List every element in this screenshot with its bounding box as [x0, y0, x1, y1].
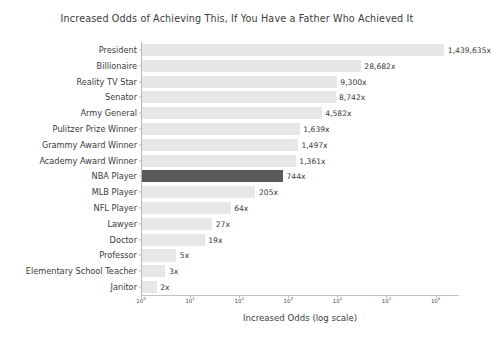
category-label: Reality TV Star: [76, 77, 137, 87]
x-axis-tick-label: 105: [382, 298, 391, 304]
y-axis-tick: [139, 49, 142, 50]
bar: [142, 91, 336, 103]
category-label: Lawyer: [107, 219, 137, 229]
bar-row: NBA Player744x: [141, 169, 459, 185]
bar-value-label: 28,682x: [364, 61, 395, 70]
bar: [142, 234, 205, 246]
bar: [142, 186, 255, 198]
y-axis-tick: [139, 255, 142, 256]
category-label: Senator: [105, 92, 137, 102]
bar-row: Grammy Award Winner1,497x: [141, 137, 459, 153]
bar: [142, 44, 444, 56]
y-axis-tick: [139, 81, 142, 82]
bar-row: Reality TV Star9,300x: [141, 74, 459, 90]
bar: [142, 76, 337, 88]
category-label: Pulitzer Prize Winner: [53, 124, 137, 134]
x-axis-tick-label: 106: [431, 298, 440, 304]
category-label: Grammy Award Winner: [42, 140, 137, 150]
bar: [142, 249, 176, 261]
bar-value-label: 27x: [216, 219, 230, 228]
bar-value-label: 64x: [234, 204, 248, 213]
category-label: Army General: [80, 108, 137, 118]
y-axis-tick: [139, 287, 142, 288]
bar: [142, 123, 300, 135]
bar-value-label: 19x: [208, 235, 222, 244]
y-axis-tick: [139, 128, 142, 129]
y-axis-tick: [139, 223, 142, 224]
category-label: President: [99, 45, 137, 55]
category-label: Professor: [99, 250, 137, 260]
x-axis-tick-label: 100: [136, 298, 145, 304]
y-axis-tick: [139, 65, 142, 66]
category-label: NBA Player: [92, 171, 137, 181]
bar-row: Professor5x: [141, 248, 459, 264]
x-axis-tick-label: 101: [185, 298, 194, 304]
category-label: MLB Player: [92, 187, 137, 197]
bar: [142, 218, 212, 230]
bar-value-label: 2x: [160, 283, 169, 292]
bar-row: Senator8,742x: [141, 89, 459, 105]
bar: [142, 265, 165, 277]
bar-row: NFL Player64x: [141, 200, 459, 216]
bar-value-label: 1,497x: [301, 140, 327, 149]
bar-value-label: 1,439,635x: [448, 45, 491, 54]
bar-value-label: 205x: [259, 188, 278, 197]
bar-row: Lawyer27x: [141, 216, 459, 232]
x-axis-tick-label: 103: [284, 298, 293, 304]
y-axis-tick: [139, 239, 142, 240]
x-axis-label: Increased Odds (log scale): [141, 313, 459, 323]
bar-row: Army General4,582x: [141, 105, 459, 121]
y-axis-tick: [139, 97, 142, 98]
bar-row: Pulitzer Prize Winner1,639x: [141, 121, 459, 137]
bar-value-label: 9,300x: [340, 77, 366, 86]
bar-row: Academy Award Winner1,361x: [141, 153, 459, 169]
category-label: Elementary School Teacher: [26, 266, 137, 276]
bar-value-label: 5x: [180, 251, 189, 260]
category-label: Academy Award Winner: [39, 156, 137, 166]
bar: [142, 155, 296, 167]
category-label: Janitor: [111, 282, 137, 292]
bar-row: Janitor2x: [141, 279, 459, 295]
bar-row: President1,439,635x: [141, 42, 459, 58]
category-label: Doctor: [110, 235, 137, 245]
y-axis-tick: [139, 271, 142, 272]
y-axis-tick: [139, 160, 142, 161]
chart-title: Increased Odds of Achieving This, If You…: [0, 13, 474, 24]
bar-row: Elementary School Teacher3x: [141, 263, 459, 279]
y-axis-tick: [139, 208, 142, 209]
category-label: Billionaire: [97, 61, 137, 71]
bar-row: MLB Player205x: [141, 184, 459, 200]
bar: [142, 107, 322, 119]
bar-value-label: 4,582x: [325, 109, 351, 118]
bar-value-label: 8,742x: [339, 93, 365, 102]
bar: [142, 139, 298, 151]
bar-row: Billionaire28,682x: [141, 58, 459, 74]
bar: [142, 281, 157, 293]
bar-value-label: 1,639x: [303, 124, 329, 133]
bar-value-label: 1,361x: [299, 156, 325, 165]
y-axis-tick: [139, 144, 142, 145]
y-axis-tick: [139, 176, 142, 177]
category-label: NFL Player: [94, 203, 137, 213]
bar-row: Doctor19x: [141, 232, 459, 248]
bar: [142, 60, 361, 72]
y-axis-tick: [139, 192, 142, 193]
bar: [142, 202, 231, 214]
x-axis-tick-label: 102: [235, 298, 244, 304]
x-axis-tick-label: 104: [333, 298, 342, 304]
plot-area: 100101102103104105106President1,439,635x…: [141, 42, 459, 295]
y-axis-tick: [139, 113, 142, 114]
bar: [142, 170, 283, 182]
bar-value-label: 744x: [286, 172, 305, 181]
bar-value-label: 3x: [169, 267, 178, 276]
x-axis-spine: [141, 295, 459, 296]
